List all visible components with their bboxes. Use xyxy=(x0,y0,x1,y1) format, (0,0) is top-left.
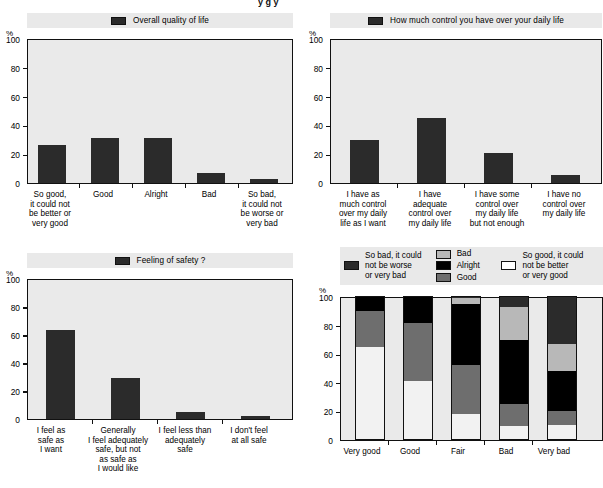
chart4-legend-entry-alright: Alright xyxy=(436,261,498,271)
chart1-xtick xyxy=(185,184,186,188)
chart3-legend-label: Feeling of safety ? xyxy=(137,256,206,265)
segment-bad xyxy=(452,298,480,304)
chart-control-over-daily-life: How much control you have over your dail… xyxy=(303,8,603,233)
bar-so-bad xyxy=(250,179,278,183)
segment-good xyxy=(404,323,432,381)
bar-less-than-adequate xyxy=(176,412,205,419)
legend-swatch-so-bad-icon xyxy=(344,261,359,270)
legend-swatch-good-icon xyxy=(436,273,451,282)
chart1-ytick-0: 0 xyxy=(0,179,20,189)
chart4-xtick xyxy=(484,441,485,445)
chart4-ytick-40: 40 xyxy=(313,379,333,389)
chart2-plot-area xyxy=(330,39,602,184)
chart3-xtick xyxy=(222,420,223,424)
legend-swatch-icon xyxy=(368,17,383,25)
chart3-ytick-80: 80 xyxy=(0,303,20,313)
segment-bad xyxy=(548,344,576,371)
chart2-xlabel-2: I have some control over my daily life b… xyxy=(457,190,537,228)
bar-adequate-control xyxy=(417,118,446,183)
chart1-ytick-60: 60 xyxy=(0,93,20,103)
segment-alright xyxy=(404,297,432,323)
segment-so-bad xyxy=(548,297,576,344)
chart4-legend-group-middle: Bad Alright Good xyxy=(436,249,498,282)
chart2-ytick-100: 100 xyxy=(303,35,323,45)
chart4-legend-label-good: Good xyxy=(457,273,477,283)
chart2-xlabel-0: I have as much control over my daily lif… xyxy=(325,190,401,228)
legend-swatch-icon xyxy=(115,257,130,265)
stacked-bar-good xyxy=(403,296,433,440)
chart2-legend-label: How much control you have over your dail… xyxy=(390,16,564,25)
segment-good xyxy=(500,404,528,427)
chart4-ytick-80: 80 xyxy=(313,322,333,332)
chart1-ytick-20: 20 xyxy=(0,150,20,160)
chart2-ytick-60: 60 xyxy=(303,93,323,103)
chart-feeling-of-safety: Feeling of safety ? % 100 80 60 40 20 0 … xyxy=(0,249,300,488)
segment-so-good xyxy=(404,381,432,439)
chart-quality-of-life-by-health: So bad, it could not be worse or very ba… xyxy=(303,244,603,488)
chart2-ytick-0: 0 xyxy=(303,179,323,189)
chart3-legend: Feeling of safety ? xyxy=(27,253,293,268)
page-top-title-fragment: y g y xyxy=(258,0,448,8)
stacked-bar-very-good xyxy=(355,296,385,440)
chart4-legend: So bad, it could not be worse or very ba… xyxy=(340,247,603,285)
chart4-ytick-20: 20 xyxy=(313,407,333,417)
chart1-ytick-80: 80 xyxy=(0,64,20,74)
chart-overall-quality-of-life: Overall quality of life % 100 80 60 40 2… xyxy=(0,8,300,233)
chart4-xtick xyxy=(388,441,389,445)
chart4-ytick-0: 0 xyxy=(313,436,333,446)
chart1-xtick xyxy=(132,184,133,188)
bar-some-control xyxy=(484,153,513,183)
chart2-xtick xyxy=(464,184,465,188)
chart4-xtick xyxy=(532,441,533,445)
stacked-bar-bad xyxy=(499,296,529,440)
bar-alright xyxy=(144,138,172,183)
segment-alright xyxy=(500,340,528,404)
chart4-legend-entry-bad: Bad xyxy=(436,249,498,259)
chart3-plot-area xyxy=(27,279,293,420)
stacked-bar-very-bad xyxy=(547,296,577,440)
chart3-ytick-0: 0 xyxy=(0,415,20,425)
stacked-bar-fair xyxy=(451,296,481,440)
segment-so-good xyxy=(356,347,384,439)
chart4-legend-label-so-bad: So bad, it could not be worse or very ba… xyxy=(365,251,421,280)
chart4-xtick xyxy=(436,441,437,445)
bar-as-much-control xyxy=(350,140,379,184)
chart2-ytick-40: 40 xyxy=(303,121,323,131)
legend-swatch-so-good-icon xyxy=(501,261,516,270)
chart4-plot-area xyxy=(340,297,603,441)
segment-so-bad xyxy=(500,297,528,307)
chart3-ytick-60: 60 xyxy=(0,331,20,341)
bar-so-good xyxy=(38,145,66,183)
bar-generally-safe xyxy=(111,378,140,419)
chart3-xtick xyxy=(157,420,158,424)
chart1-legend-label: Overall quality of life xyxy=(133,16,209,25)
chart3-ytick-20: 20 xyxy=(0,387,20,397)
chart2-xtick xyxy=(397,184,398,188)
chart2-xlabel-3: I have no control over my daily life xyxy=(526,190,602,219)
segment-so-good xyxy=(548,425,576,439)
segment-alright xyxy=(452,304,480,365)
chart4-legend-entry-so-bad: So bad, it could not be worse or very ba… xyxy=(344,251,436,280)
segment-alright xyxy=(356,297,384,311)
chart3-ytick-100: 100 xyxy=(0,275,20,285)
bar-no-control xyxy=(551,175,580,183)
legend-swatch-alright-icon xyxy=(436,261,451,270)
chart1-legend: Overall quality of life xyxy=(27,13,293,28)
chart4-ytick-60: 60 xyxy=(313,350,333,360)
chart3-xlabel-3: I don't feel at all safe xyxy=(212,426,286,445)
bar-not-at-all-safe xyxy=(241,416,270,420)
segment-so-good xyxy=(452,414,480,439)
segment-good xyxy=(548,411,576,425)
chart3-xtick xyxy=(92,420,93,424)
legend-swatch-icon xyxy=(111,17,126,25)
figure-page: y g y Overall quality of life % 100 80 6… xyxy=(0,0,603,488)
chart1-xtick xyxy=(238,184,239,188)
chart3-ytick-40: 40 xyxy=(0,359,20,369)
bar-safe-as-i-want xyxy=(46,330,75,420)
segment-good xyxy=(452,365,480,414)
bar-bad xyxy=(197,173,225,183)
chart4-legend-entry-good: Good xyxy=(436,273,498,283)
chart4-ytick-100: 100 xyxy=(313,293,333,303)
chart1-xtick xyxy=(79,184,80,188)
chart1-xlabel-4: So bad, it could not be worse or very ba… xyxy=(226,190,298,228)
